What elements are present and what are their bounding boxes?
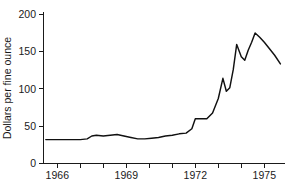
y-tick-label-150: 150 — [18, 45, 36, 57]
y-tick-label-200: 200 — [18, 8, 36, 20]
x-tick-label-1975: 1975 — [253, 169, 277, 181]
x-tick-label-1969: 1969 — [115, 169, 139, 181]
data-series-gold-price — [46, 33, 281, 140]
x-tick-marks — [57, 163, 264, 168]
y-tick-labels: 200 150 100 50 0 — [18, 8, 36, 169]
chart-container: 200 150 100 50 0 1966196919721975 Dollar… — [0, 0, 296, 189]
y-tick-label-50: 50 — [24, 120, 36, 132]
y-tick-label-0: 0 — [30, 157, 36, 169]
y-tick-label-100: 100 — [18, 83, 36, 95]
x-tick-label-1966: 1966 — [46, 169, 70, 181]
x-tick-labels: 1966196919721975 — [46, 169, 277, 181]
y-axis-title: Dollars per fine ounce — [1, 37, 13, 139]
line-chart: 200 150 100 50 0 1966196919721975 Dollar… — [0, 0, 296, 189]
x-tick-label-1972: 1972 — [184, 169, 208, 181]
